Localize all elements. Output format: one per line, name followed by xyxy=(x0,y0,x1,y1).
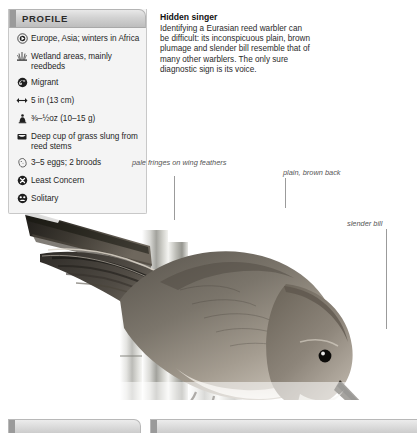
profile-value-habitat: Wetland areas, mainly reedbeds xyxy=(31,51,142,72)
header-accent-tab-right xyxy=(151,420,157,433)
profile-value-length: 5 in (13 cm) xyxy=(31,95,76,106)
migration-arrow-icon xyxy=(13,77,31,88)
profile-row-social: Solitary xyxy=(13,193,142,206)
social-behavior-icon xyxy=(13,193,31,204)
profile-row-migration: Migrant xyxy=(13,77,142,90)
next-panel-header-left xyxy=(8,419,141,433)
profile-value-weight: ⅜–½oz (10–15 g) xyxy=(31,113,97,124)
profile-value-social: Solitary xyxy=(31,193,60,204)
profile-title: PROFILE xyxy=(16,13,68,24)
next-panel-header-right xyxy=(150,419,417,433)
leader-line-bill xyxy=(386,229,387,329)
callout-label-back: plain, brown back xyxy=(283,168,341,177)
egg-icon xyxy=(13,157,31,168)
profile-row-nest: Deep cup of grass slung from reed stems xyxy=(13,131,142,152)
profile-value-range: Europe, Asia; winters in Africa xyxy=(31,33,141,44)
reeds-habitat-icon xyxy=(13,51,31,62)
profile-attribute-list: Europe, Asia; winters in Africa Wetland … xyxy=(9,28,146,213)
profile-value-migration: Migrant xyxy=(31,77,60,88)
description-heading: Hidden singer xyxy=(160,12,312,22)
profile-value-eggs: 3–5 eggs; 2 broods xyxy=(31,157,103,168)
weight-icon xyxy=(13,113,31,124)
leader-line-wing xyxy=(174,176,175,220)
callout-label-wing: pale fringes on wing feathers xyxy=(132,158,216,167)
length-arrows-icon xyxy=(13,95,31,106)
nest-icon xyxy=(13,131,31,142)
leader-line-back xyxy=(285,178,286,208)
callout-label-bill: slender bill xyxy=(347,219,382,228)
description-block: Hidden singer Identifying a Eurasian ree… xyxy=(160,12,312,75)
conservation-status-icon xyxy=(13,175,31,186)
description-body: Identifying a Eurasian reed warbler can … xyxy=(160,24,312,75)
profile-panel: PROFILE Europe, Asia; winters in Africa xyxy=(8,9,147,214)
profile-row-range: Europe, Asia; winters in Africa xyxy=(13,33,142,46)
header-accent-tab-left xyxy=(9,420,15,433)
profile-row-length: 5 in (13 cm) xyxy=(13,95,142,108)
profile-row-weight: ⅜–½oz (10–15 g) xyxy=(13,113,142,126)
profile-value-conservation: Least Concern xyxy=(31,175,86,186)
globe-range-icon xyxy=(13,33,31,44)
profile-row-conservation: Least Concern xyxy=(13,175,142,188)
profile-value-nest: Deep cup of grass slung from reed stems xyxy=(31,131,142,152)
bird-eye xyxy=(319,350,332,363)
profile-row-eggs: 3–5 eggs; 2 broods xyxy=(13,157,142,170)
profile-row-habitat: Wetland areas, mainly reedbeds xyxy=(13,51,142,72)
profile-panel-header: PROFILE xyxy=(9,9,146,28)
